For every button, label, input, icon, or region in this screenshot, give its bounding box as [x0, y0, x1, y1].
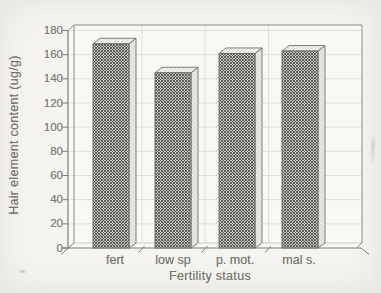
y-tick-label-60: 60 — [22, 169, 63, 182]
bar-top-face — [93, 38, 136, 44]
bar-top-face — [282, 46, 325, 52]
bar-front-face — [155, 73, 191, 248]
y-ticks — [63, 31, 69, 249]
y-axis-title: Hair element content (ug/g) — [7, 30, 23, 240]
bar-front-face — [282, 51, 318, 248]
y-tick-label-180: 180 — [22, 24, 63, 37]
bar-side-face — [255, 48, 262, 248]
bar-mal-s — [282, 46, 325, 248]
bar-side-face — [318, 46, 325, 248]
bar-front-face — [219, 53, 255, 248]
y-tick-label-0: 0 — [22, 242, 63, 255]
y-tick-label-160: 160 — [22, 48, 63, 61]
scanned-figure-page: Hair element content (ug/g) Fertility st… — [0, 0, 381, 293]
bar-side-face — [191, 67, 198, 248]
right-corner-tick — [361, 248, 369, 255]
bar-fert — [93, 38, 136, 248]
y-tick-label-80: 80 — [22, 145, 63, 158]
y-tick-label-20: 20 — [22, 217, 63, 230]
y-tick-label-120: 120 — [22, 97, 63, 110]
bar-p-mot — [219, 48, 262, 248]
x-category-label-4: mal s. — [262, 253, 336, 267]
x-axis-title: Fertility status — [140, 269, 280, 285]
bar-top-face — [219, 48, 262, 54]
y-tick-label-140: 140 — [22, 72, 63, 85]
bar-low-sp — [155, 67, 198, 248]
bar-top-face — [155, 67, 198, 73]
y-tick-label-100: 100 — [22, 121, 63, 134]
bar-front-face — [93, 44, 129, 248]
bar-side-face — [129, 38, 136, 248]
y-tick-label-40: 40 — [22, 193, 63, 206]
x-category-label-3: p. mot. — [198, 253, 272, 267]
